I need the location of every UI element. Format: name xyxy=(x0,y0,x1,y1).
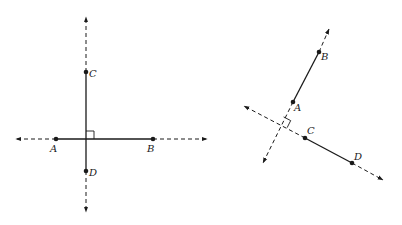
right-label-A: A xyxy=(293,102,301,113)
right-label-B: B xyxy=(320,51,328,62)
left-point-D xyxy=(84,169,89,174)
perpendicular-lines-diagram: A B C D A B C D xyxy=(0,0,402,225)
left-label-D: D xyxy=(88,167,97,178)
left-point-A xyxy=(54,137,59,142)
left-label-C: C xyxy=(89,68,97,79)
right-lineCD-dashed-right xyxy=(352,163,383,180)
left-label-A: A xyxy=(49,143,57,154)
right-label-D: D xyxy=(353,151,362,162)
right-point-C xyxy=(303,136,308,141)
left-point-C xyxy=(84,70,89,75)
left-point-B xyxy=(151,137,156,142)
right-figure: A B C D xyxy=(244,29,383,180)
right-lineAB-dashed-bottom xyxy=(263,102,293,163)
left-right-angle-mark xyxy=(86,131,94,139)
right-segment-AB xyxy=(293,52,319,102)
right-segment-CD xyxy=(305,138,352,163)
left-label-B: B xyxy=(146,143,154,154)
right-right-angle-mark xyxy=(284,117,291,128)
right-label-C: C xyxy=(307,125,315,136)
left-figure: A B C D xyxy=(16,17,207,212)
right-lineAB-dashed-top xyxy=(319,29,329,52)
